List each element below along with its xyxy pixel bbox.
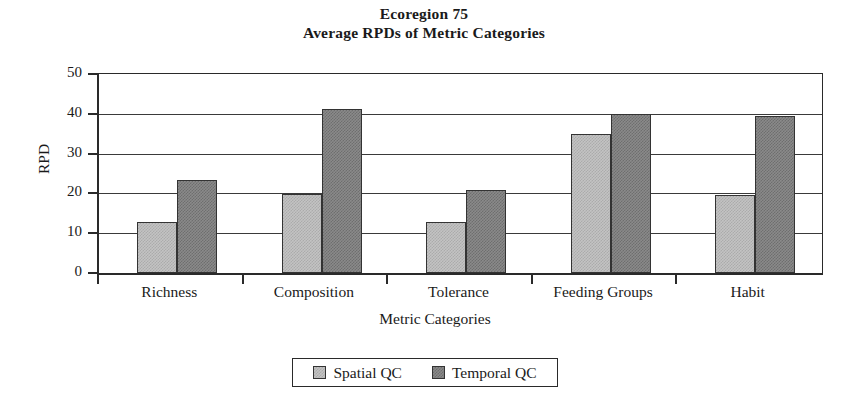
bar (137, 222, 177, 273)
chart-title: Ecoregion 75 (0, 4, 848, 23)
bar (611, 114, 651, 273)
chart-title-block: Ecoregion 75 Average RPDs of Metric Cate… (0, 4, 848, 42)
bar (322, 109, 362, 273)
y-axis-tick-label: 0 (36, 264, 82, 279)
bar (755, 116, 795, 273)
x-axis-category-label: Feeding Groups (531, 283, 676, 301)
bar (715, 195, 755, 273)
bar (466, 190, 506, 273)
y-axis-tick-label: 10 (36, 224, 82, 239)
legend-label: Temporal QC (452, 365, 537, 381)
x-axis-title-text: Metric Categories (379, 310, 490, 328)
legend-entry: Spatial QC (313, 365, 401, 381)
chart-figure: Ecoregion 75 Average RPDs of Metric Cate… (0, 0, 848, 411)
legend-entry: Temporal QC (432, 365, 537, 381)
bar (571, 134, 611, 273)
y-axis-tick-label: 20 (36, 184, 82, 199)
x-axis-title: Metric Categories (0, 310, 848, 328)
x-axis-category-label: Composition (242, 283, 387, 301)
dark-grey-swatch (432, 366, 445, 379)
x-axis-category-label: Habit (675, 283, 820, 301)
chart-subtitle: Average RPDs of Metric Categories (0, 23, 848, 42)
bar (177, 180, 217, 273)
legend-label: Spatial QC (333, 365, 401, 381)
light-grey-swatch (313, 366, 326, 379)
x-axis-category-label: Tolerance (386, 283, 531, 301)
x-axis-category-label: Richness (97, 283, 242, 301)
gridline (99, 114, 822, 115)
y-axis-tick-label: 30 (36, 145, 82, 160)
plot-area (97, 73, 823, 275)
gridline (99, 154, 822, 155)
y-axis-tick-label: 50 (36, 65, 82, 80)
y-axis-tick-label: 40 (36, 105, 82, 120)
bar (426, 222, 466, 273)
bar (282, 194, 322, 273)
chart-legend: Spatial QCTemporal QC (292, 358, 558, 387)
